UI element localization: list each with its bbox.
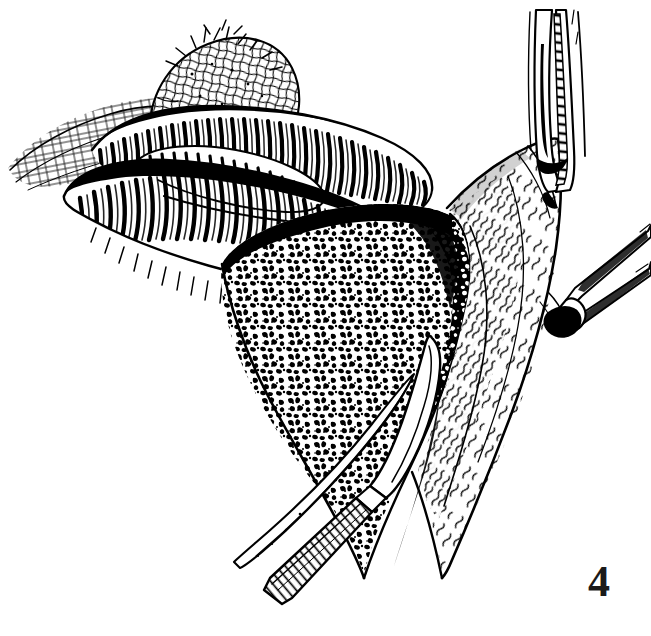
- figure-container: Surgical line-art illustration: bowel lo…: [0, 0, 651, 636]
- surgical-illustration: [0, 0, 651, 636]
- figure-number-label: 4: [578, 558, 620, 606]
